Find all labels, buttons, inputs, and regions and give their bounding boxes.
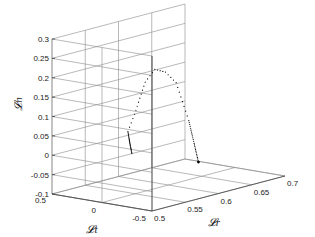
z-tick-label: 0.2 — [38, 74, 50, 83]
data-point — [191, 133, 192, 134]
data-point — [128, 135, 129, 136]
z-tick-label: 0.3 — [38, 35, 50, 44]
data-point — [196, 155, 197, 156]
data-point — [141, 94, 142, 95]
data-point — [196, 154, 197, 155]
data-point — [147, 78, 148, 79]
data-point — [162, 71, 163, 72]
data-point — [139, 98, 140, 99]
data-point — [129, 139, 130, 140]
x-tick-label: 0.5 — [154, 214, 166, 223]
data-point — [157, 69, 158, 70]
data-point — [160, 70, 161, 71]
y-tick-label: 0.5 — [35, 196, 47, 205]
data-point — [142, 90, 143, 91]
z-tick-label: 0.1 — [38, 113, 50, 122]
x-tick-label: 0.55 — [187, 205, 203, 214]
data-point — [129, 142, 130, 143]
data-point — [195, 151, 196, 152]
data-point — [195, 147, 196, 148]
z-axis-label: 𝓛n — [12, 97, 24, 111]
data-point — [173, 79, 174, 80]
data-point — [138, 102, 139, 103]
data-point — [192, 137, 193, 138]
data-point — [145, 82, 146, 83]
data-point — [187, 115, 188, 116]
data-point — [194, 143, 195, 144]
data-point — [129, 143, 130, 144]
data-point — [196, 152, 197, 153]
data-point — [129, 127, 130, 128]
data-point — [188, 120, 189, 121]
data-point — [128, 133, 129, 134]
data-point — [149, 75, 150, 76]
y-tick-label: -0.5 — [132, 214, 146, 223]
end-point-marker — [197, 161, 200, 164]
grid-lines — [52, 4, 285, 211]
data-point — [189, 122, 190, 123]
y-axis-label: 𝓛t — [86, 223, 98, 235]
data-point — [185, 111, 186, 112]
data-point — [135, 110, 136, 111]
data-point — [170, 77, 171, 78]
data-point — [179, 92, 180, 93]
data-point — [131, 122, 132, 123]
data-point — [168, 74, 169, 75]
data-point — [165, 72, 166, 73]
data-point — [129, 141, 130, 142]
data-point — [183, 106, 184, 107]
data-point — [190, 130, 191, 131]
z-tick-label: 0 — [45, 151, 50, 160]
data-point — [190, 126, 191, 127]
data-point — [190, 128, 191, 129]
z-tick-label: -0.05 — [31, 171, 50, 180]
data-point — [194, 146, 195, 147]
data-point — [143, 86, 144, 87]
data-point — [195, 149, 196, 150]
data-point — [193, 141, 194, 142]
x-tick-label: 0.65 — [254, 188, 270, 197]
data-point — [127, 131, 128, 132]
data-point — [180, 96, 181, 97]
data-point — [182, 101, 183, 102]
x-tick-label: 0.6 — [221, 197, 233, 206]
tick-labels: 0.30.250.20.150.10.050-0.05-0.10.50-0.50… — [31, 35, 299, 223]
data-point — [134, 114, 135, 115]
data-point — [189, 124, 190, 125]
data-point — [192, 135, 193, 136]
data-point — [194, 144, 195, 145]
data-point — [128, 137, 129, 138]
data-point — [127, 132, 128, 133]
data-point — [128, 134, 129, 135]
data-series — [127, 69, 200, 164]
data-point — [132, 118, 133, 119]
data-point — [193, 139, 194, 140]
z-tick-label: 0.25 — [33, 54, 49, 63]
data-point — [176, 82, 177, 83]
data-point — [129, 140, 130, 141]
data-point — [177, 87, 178, 88]
x-axis-label: 𝓛r — [208, 216, 221, 228]
data-point — [137, 106, 138, 107]
y-tick-label: 0 — [92, 206, 97, 215]
3d-scatter-chart: 0.30.250.20.150.10.050-0.05-0.10.50-0.50… — [0, 0, 315, 237]
data-point — [154, 69, 155, 70]
data-point — [197, 157, 198, 158]
data-point — [191, 131, 192, 132]
x-tick-label: 0.7 — [287, 179, 299, 188]
z-tick-label: 0.15 — [33, 93, 49, 102]
data-point — [128, 138, 129, 139]
data-point — [197, 158, 198, 159]
data-point — [152, 72, 153, 73]
z-tick-label: 0.05 — [33, 132, 49, 141]
data-point — [128, 136, 129, 137]
